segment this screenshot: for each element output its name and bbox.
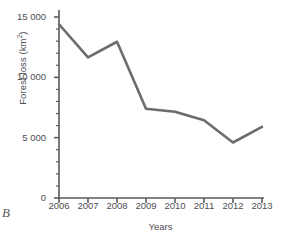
x-axis-title: Years [59,221,262,232]
chart-figure: B Forest loss (km2) 05 00010 00015 000 2… [0,0,308,242]
x-tick-label: 2006 [48,201,69,211]
x-tick-label: 2009 [135,201,156,211]
forest-loss-line [59,24,262,142]
x-tick-label: 2012 [222,201,243,211]
x-tick-label: 2008 [106,201,127,211]
x-tick-label: 2013 [251,201,272,211]
axes [59,10,264,198]
x-tick-label: 2007 [77,201,98,211]
x-tick-label: 2010 [164,201,185,211]
x-tick-label: 2011 [194,201,214,211]
